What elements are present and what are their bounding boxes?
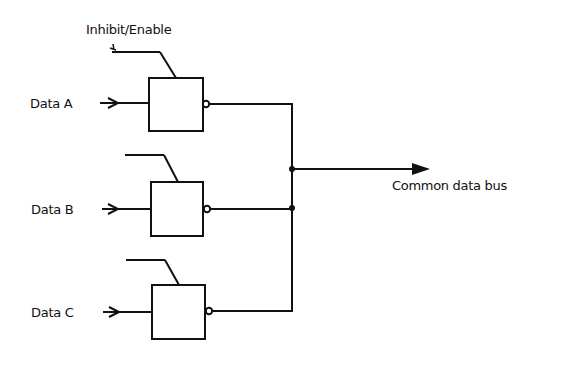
bus-arrow-icon [412, 163, 430, 175]
junction-dot [289, 205, 295, 211]
gate-b [102, 155, 292, 236]
input-label-c: Data C [31, 305, 73, 320]
common-bus [292, 103, 420, 312]
gate-c [103, 260, 292, 339]
input-label-b: Data B [31, 202, 73, 217]
junction-dot [289, 166, 295, 172]
gate-a [100, 52, 292, 131]
input-label-a: Data A [30, 96, 72, 111]
control-label: Inhibit/Enable [86, 22, 171, 37]
output-label: Common data bus [392, 178, 507, 193]
control-pointer-icon [110, 44, 116, 50]
